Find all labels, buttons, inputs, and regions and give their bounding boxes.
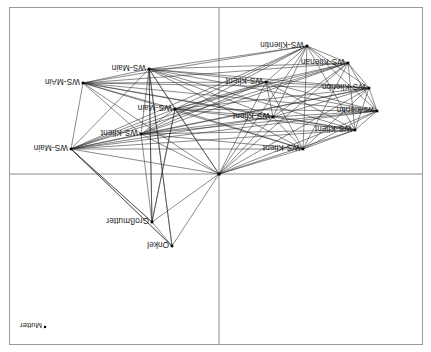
node-label: WS-Klientin — [260, 40, 304, 48]
node-label: ws-kientin — [337, 105, 374, 113]
graph-edge — [71, 83, 83, 149]
graph-edge — [152, 174, 219, 222]
graph-node-marker[interactable] — [368, 87, 371, 90]
node-label: WS-Klient — [315, 124, 352, 132]
graph-node-marker[interactable] — [354, 129, 357, 132]
graph-edge — [219, 149, 303, 174]
node-label: Großmutter — [106, 216, 149, 224]
graph-node-marker[interactable] — [44, 326, 46, 328]
node-label: WS-Main — [138, 103, 172, 111]
node-label: WS-Klient — [226, 76, 263, 84]
node-label: WS-Klient — [263, 143, 300, 151]
graph-edge — [172, 174, 219, 246]
graph-node-marker[interactable] — [171, 245, 174, 248]
graph-edge — [149, 69, 152, 222]
node-label: WS-Klient — [233, 111, 270, 119]
graph-edge — [219, 130, 355, 174]
graph-edge — [152, 109, 175, 222]
graph-node-marker[interactable] — [376, 110, 379, 113]
node-label: WS-Main — [112, 63, 146, 71]
node-label: WS-Main — [34, 143, 68, 151]
graph-edge — [307, 46, 377, 111]
graph-node-marker[interactable] — [82, 82, 85, 85]
node-label: WS-Klienan — [301, 57, 345, 65]
node-label: Mutter — [20, 321, 42, 329]
graph-node-marker[interactable] — [218, 173, 221, 176]
graph-node-marker[interactable] — [306, 45, 309, 48]
graph-node-marker[interactable] — [140, 133, 143, 136]
graph-node-marker[interactable] — [70, 148, 73, 151]
graph-edge — [141, 46, 307, 134]
node-label: Onkel — [147, 240, 169, 248]
graph-node-marker[interactable] — [174, 108, 177, 111]
node-label: WS-Klient — [101, 128, 138, 136]
graph-node-marker[interactable] — [148, 68, 151, 71]
graph-edge — [71, 149, 152, 222]
graph-node-marker[interactable] — [151, 221, 154, 224]
graph-edge — [175, 82, 266, 109]
network-graph-canvas — [0, 0, 431, 352]
graph-node-marker[interactable] — [302, 148, 305, 151]
graph-node-marker[interactable] — [265, 81, 268, 84]
node-label: WS-MAin — [45, 77, 80, 85]
node-label: WS-Klienbn — [322, 82, 366, 90]
graph-edge — [83, 83, 141, 134]
graph-node-marker[interactable] — [347, 62, 350, 65]
graph-node-marker[interactable] — [272, 116, 275, 119]
screenshot-root: WS-MAinWS-MainWS-MainWS-KlientWS-MainWS-… — [0, 0, 431, 352]
